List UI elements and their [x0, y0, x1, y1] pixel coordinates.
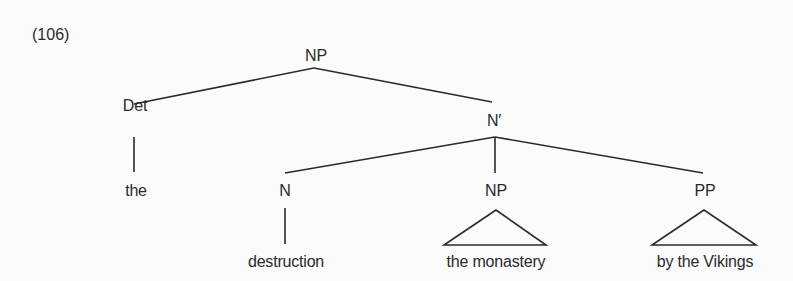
edge-np-det [134, 68, 314, 104]
syntax-tree-diagram: (106) NP Det N′ the N NP PP destruction … [0, 0, 793, 281]
triangle-pp-abbreviation [652, 210, 756, 245]
node-det: Det [123, 98, 147, 114]
edge-nbar-pp [495, 137, 703, 173]
leaf-destruction: destruction [248, 254, 324, 270]
node-pp: PP [695, 183, 716, 199]
edge-np-nbar [314, 68, 492, 102]
edge-nbar-n [285, 137, 495, 173]
triangle-np-abbreviation [444, 210, 546, 245]
node-np-object: NP [485, 183, 507, 199]
tree-edges [0, 0, 793, 281]
node-nbar: N′ [487, 113, 501, 129]
node-np-root: NP [305, 48, 327, 64]
leaf-the: the [125, 183, 147, 199]
leaf-the-monastery: the monastery [447, 254, 546, 270]
node-n: N [279, 183, 290, 199]
leaf-by-the-vikings: by the Vikings [657, 254, 754, 270]
